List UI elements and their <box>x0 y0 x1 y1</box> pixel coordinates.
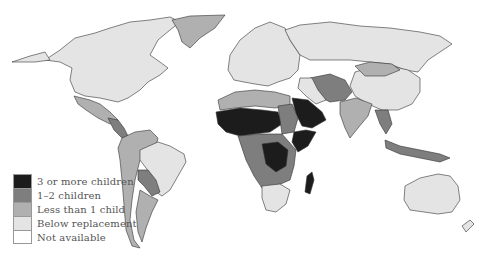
region-indonesia <box>385 140 450 162</box>
legend-swatch <box>13 174 32 188</box>
region-india <box>340 98 372 138</box>
region-new-zealand <box>462 220 474 232</box>
region-madagascar <box>305 172 314 194</box>
legend: 3 or more children 1–2 children Less tha… <box>13 174 137 244</box>
region-australia <box>404 174 460 214</box>
legend-swatch <box>13 202 32 216</box>
region-arabian-peninsula <box>292 98 326 128</box>
legend-item-not-available: Not available <box>13 230 137 244</box>
region-greenland <box>172 15 225 48</box>
legend-item-3plus: 3 or more children <box>13 174 137 188</box>
legend-label: Not available <box>37 232 106 243</box>
region-horn-of-africa <box>292 130 316 152</box>
legend-label: 3 or more children <box>37 176 134 187</box>
legend-label: 1–2 children <box>37 190 101 201</box>
legend-item-less-1: Less than 1 child <box>13 202 137 216</box>
region-central-america <box>108 118 128 138</box>
region-southeast-asia <box>375 110 392 134</box>
legend-swatch <box>13 230 32 244</box>
legend-label: Below replacement <box>37 218 137 229</box>
legend-swatch <box>13 188 32 202</box>
region-southern-cone <box>136 190 158 242</box>
region-southern-africa <box>262 184 290 212</box>
region-alaska <box>12 52 50 62</box>
legend-item-1-2: 1–2 children <box>13 188 137 202</box>
region-north-america <box>45 17 180 102</box>
legend-item-below-replacement: Below replacement <box>13 216 137 230</box>
legend-label: Less than 1 child <box>37 204 125 215</box>
region-sahel <box>216 108 282 136</box>
legend-swatch <box>13 216 32 230</box>
